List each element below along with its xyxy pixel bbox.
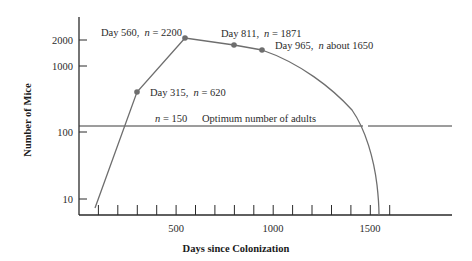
data-point-day-560 <box>182 35 188 41</box>
y-tick-label-100: 100 <box>57 127 73 138</box>
annotation-day-315: Day 315,n = 620 <box>150 87 226 98</box>
y-tick-label-1000: 1000 <box>52 61 73 72</box>
data-point-day-811 <box>231 42 237 48</box>
x-ticks <box>98 205 389 215</box>
y-axis-title: Number of Mice <box>22 83 33 157</box>
reference-n-label: n = 150 <box>155 113 187 124</box>
data-point-day-965 <box>259 47 265 53</box>
y-tick-label-2000: 2000 <box>52 35 73 46</box>
x-tick-label-500: 500 <box>168 223 184 234</box>
population-chart: 2000 1000 100 10 500 1000 1500 Days sinc… <box>0 0 472 261</box>
annotation-day-965: Day 965,n about 1650 <box>275 40 373 51</box>
x-tick-label-1500: 1500 <box>360 223 381 234</box>
annotation-day-560: Day 560,n = 2200 <box>101 27 182 38</box>
x-axis-title: Days since Colonization <box>183 243 290 254</box>
x-tick-label-1000: 1000 <box>263 223 284 234</box>
data-point-day-315 <box>134 89 140 95</box>
reference-line-label: Optimum number of adults <box>202 113 316 124</box>
annotation-day-811: Day 811,n = 1871 <box>221 28 302 39</box>
y-tick-label-10: 10 <box>63 194 74 205</box>
